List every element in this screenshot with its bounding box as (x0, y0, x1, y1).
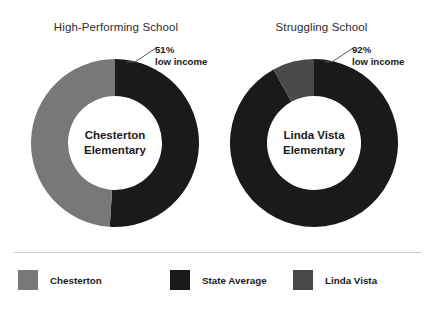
chart-figure: High-Performing School Struggling School… (0, 0, 435, 327)
donut-slice-state-average (110, 59, 199, 227)
callout-chesterton: 51% low income (155, 44, 207, 69)
legend-label-linda-vista: Linda Vista (325, 275, 377, 286)
legend-swatch-linda-vista (293, 270, 313, 290)
chart-legend: Chesterton State Average Linda Vista (14, 268, 424, 296)
callout-percent: 92% (352, 44, 404, 56)
callout-sublabel: low income (352, 56, 404, 68)
panel-title-struggling: Struggling School (224, 21, 419, 33)
callout-percent: 51% (155, 44, 207, 56)
legend-item-state-average[interactable]: State Average (170, 268, 267, 292)
legend-swatch-state-average (170, 270, 190, 290)
donut-chesterton-svg (29, 57, 201, 229)
legend-item-chesterton[interactable]: Chesterton (18, 268, 102, 292)
legend-divider (14, 252, 421, 253)
legend-label-state-average: State Average (202, 275, 267, 286)
donut-slice-chesterton (31, 59, 115, 227)
donut-linda-vista-svg (228, 57, 400, 229)
panel-title-high-performing: High-Performing School (16, 21, 216, 33)
legend-label-chesterton: Chesterton (50, 275, 102, 286)
callout-leader-line-right (323, 44, 355, 64)
donut-chart-linda-vista: Linda Vista Elementary (228, 57, 400, 229)
callout-sublabel: low income (155, 56, 207, 68)
donut-chart-chesterton: Chesterton Elementary (29, 57, 201, 229)
callout-leader-line-left (126, 44, 158, 64)
donut-slice-state-average (230, 59, 398, 227)
legend-swatch-chesterton (18, 270, 38, 290)
callout-linda-vista: 92% low income (352, 44, 404, 69)
legend-item-linda-vista[interactable]: Linda Vista (293, 268, 377, 292)
